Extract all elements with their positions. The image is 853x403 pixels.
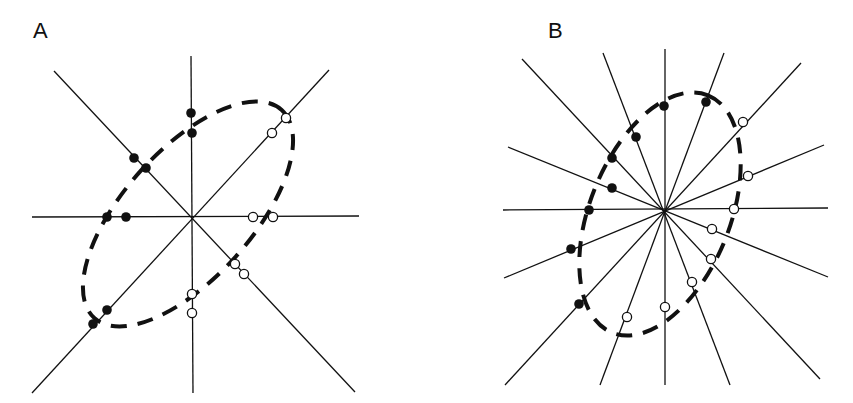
- radial-line: [508, 147, 828, 277]
- filled-dot: [607, 183, 617, 193]
- filled-dot: [607, 153, 617, 163]
- open-dot: [248, 212, 257, 221]
- filled-dot: [102, 305, 112, 315]
- open-dot: [187, 308, 196, 317]
- filled-dot: [186, 108, 196, 118]
- panel-b: [503, 49, 828, 385]
- open-dot: [267, 128, 276, 137]
- diagram-canvas: [0, 0, 853, 403]
- open-dot: [187, 289, 196, 298]
- open-dot: [239, 269, 248, 278]
- open-dot: [707, 224, 716, 233]
- filled-dot: [129, 153, 139, 163]
- filled-dot: [102, 212, 112, 222]
- open-dot: [268, 212, 277, 221]
- open-dot: [622, 312, 631, 321]
- open-dot: [230, 259, 239, 268]
- filled-dot: [659, 101, 669, 111]
- filled-dot: [121, 212, 131, 222]
- dashed-ellipse: [547, 69, 773, 359]
- panel-a: [32, 56, 359, 393]
- filled-dot: [631, 132, 641, 142]
- filled-dot: [574, 299, 584, 309]
- radial-line: [522, 59, 820, 379]
- filled-dot: [566, 244, 576, 254]
- open-dot: [729, 204, 738, 213]
- radial-line: [32, 216, 359, 217]
- filled-dot: [701, 97, 711, 107]
- open-dot: [687, 277, 696, 286]
- open-dot: [738, 117, 747, 126]
- open-dot: [281, 113, 290, 122]
- filled-dot: [88, 319, 98, 329]
- filled-dot: [141, 163, 151, 173]
- filled-dot: [187, 128, 197, 138]
- open-dot: [706, 254, 715, 263]
- radial-line: [191, 56, 193, 393]
- open-dot: [743, 171, 752, 180]
- filled-dot: [584, 205, 594, 215]
- radial-line: [505, 63, 801, 385]
- open-dot: [660, 302, 669, 311]
